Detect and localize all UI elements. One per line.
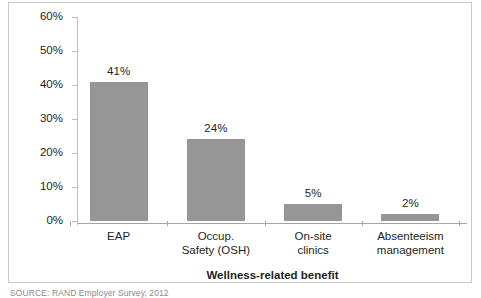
x-axis-category-label: Absenteeismmanagement [362, 229, 459, 257]
x-axis-line [78, 223, 467, 224]
x-axis-category-line: Safety (OSH) [167, 243, 264, 257]
y-tick-label: 20% [17, 147, 63, 158]
y-tick-label: 0% [17, 215, 63, 226]
x-tick-mark [362, 221, 363, 226]
x-axis-category-line: management [362, 243, 459, 257]
bar [90, 82, 148, 221]
y-tick-mark [72, 221, 78, 222]
bar-value-label: 2% [362, 197, 459, 209]
x-tick-mark [70, 221, 71, 226]
x-tick-mark [167, 221, 168, 226]
x-axis-category-line: Absenteeism [362, 229, 459, 243]
y-tick-label: 40% [17, 79, 63, 90]
x-tick-mark [459, 221, 460, 226]
bar [187, 139, 245, 221]
x-axis-title: Wellness-related benefit [78, 269, 467, 281]
y-tick-label: 60% [17, 11, 63, 22]
y-tick-label: 10% [17, 181, 63, 192]
y-tick-label: 30% [17, 113, 63, 124]
x-axis-category-line: clinics [265, 243, 362, 257]
x-axis-category-line: On-site [265, 229, 362, 243]
x-tick-mark [265, 221, 266, 226]
source-note: SOURCE: RAND Employer Survey, 2012 [10, 288, 310, 298]
x-axis-category-label: EAP [70, 229, 167, 243]
x-axis-category-label: Occup.Safety (OSH) [167, 229, 264, 257]
bar [284, 204, 342, 221]
bar-value-label: 24% [167, 122, 264, 134]
bar-value-label: 5% [265, 187, 362, 199]
x-axis-category-label: On-siteclinics [265, 229, 362, 257]
figure-frame: 0%10%20%30%40%50%60% 41%24%5%2% EAPOccup… [8, 2, 472, 283]
bar-value-label: 41% [70, 65, 167, 77]
x-axis-category-line: EAP [70, 229, 167, 243]
bar [381, 214, 439, 221]
x-axis-category-line: Occup. [167, 229, 264, 243]
y-tick-label: 50% [17, 45, 63, 56]
